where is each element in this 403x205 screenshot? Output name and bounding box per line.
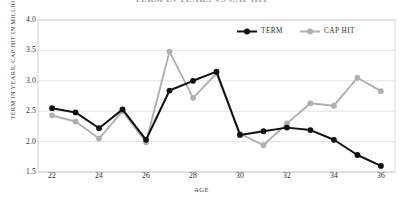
data-point bbox=[355, 152, 361, 158]
x-tick-label: 26 bbox=[134, 171, 158, 180]
x-tick-label: 28 bbox=[181, 171, 205, 180]
data-point bbox=[190, 78, 196, 84]
data-point bbox=[49, 105, 55, 111]
data-point bbox=[96, 125, 102, 131]
series-line bbox=[52, 52, 381, 146]
data-point bbox=[167, 49, 173, 55]
legend-label: CAP HIT bbox=[324, 27, 355, 35]
x-axis-tick-labels: 2224262830323436 bbox=[0, 171, 403, 185]
series-line bbox=[52, 72, 381, 166]
data-point bbox=[167, 88, 173, 94]
data-point bbox=[261, 142, 267, 148]
data-point bbox=[331, 137, 337, 143]
x-tick-label: 32 bbox=[275, 171, 299, 180]
data-point bbox=[96, 136, 102, 142]
data-point bbox=[73, 119, 79, 125]
chart-legend: TERMCAP HIT bbox=[236, 24, 355, 38]
x-tick-label: 22 bbox=[40, 171, 64, 180]
data-point bbox=[331, 103, 337, 109]
legend-marker-icon bbox=[299, 27, 321, 36]
data-point bbox=[308, 100, 314, 106]
data-point bbox=[355, 75, 361, 81]
data-point bbox=[120, 106, 126, 112]
x-tick-label: 30 bbox=[228, 171, 252, 180]
x-axis-title: AGE bbox=[0, 186, 403, 193]
data-point bbox=[237, 132, 243, 138]
data-point bbox=[49, 113, 55, 119]
data-point bbox=[73, 110, 79, 116]
data-point bbox=[378, 88, 384, 94]
chart-container: TERM IN YEARS VS CAP HIT TERM IN YEARS, … bbox=[0, 0, 403, 205]
x-tick-label: 34 bbox=[322, 171, 346, 180]
x-tick-label: 24 bbox=[87, 171, 111, 180]
data-point bbox=[190, 95, 196, 101]
legend-entry-cap-hit[interactable]: CAP HIT bbox=[299, 27, 355, 36]
data-point bbox=[284, 125, 290, 131]
data-point bbox=[308, 127, 314, 133]
data-point bbox=[143, 137, 149, 143]
data-point bbox=[261, 128, 267, 134]
series-layer bbox=[49, 49, 384, 169]
data-point bbox=[214, 69, 220, 75]
x-tick-label: 36 bbox=[369, 171, 393, 180]
legend-label: TERM bbox=[261, 27, 283, 35]
legend-entry-term[interactable]: TERM bbox=[236, 27, 283, 36]
legend-marker-icon bbox=[236, 27, 258, 36]
series-term bbox=[49, 69, 384, 169]
series-cap-hit bbox=[49, 49, 384, 148]
data-point bbox=[378, 163, 384, 169]
